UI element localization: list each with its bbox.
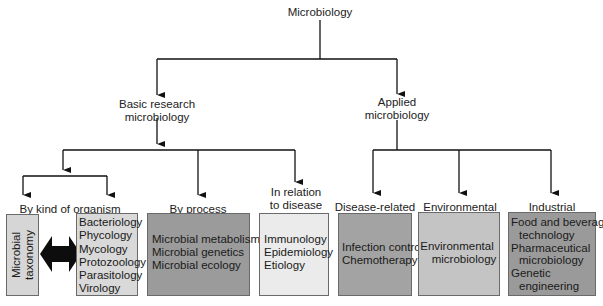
basic-label-line1: Basic research [107,98,207,111]
list-item: Environmental [419,240,499,253]
list-item: Pharmaceutical [511,242,595,255]
box-organism-disciplines: Bacteriology Phycology Mycology Protozoo… [76,213,138,296]
category-in-relation-to-disease: In relation to disease [258,186,334,212]
applied-label-line2: microbiology [347,109,447,122]
list-item: Mycology [79,243,137,256]
list-item: engineering [511,280,595,293]
list-item: Microbial ecology [152,259,249,272]
box-disease-related: Infection control Chemotherapy [338,213,412,296]
list-item: Microbial genetics [152,246,249,259]
box-industrial: Food and beverage technology Pharmaceuti… [508,212,596,296]
box-by-process: Microbial metabolism Microbial genetics … [147,213,250,296]
box-microbial-taxonomy: Microbial taxonomy [6,214,39,296]
list-item: microbiology [511,254,595,267]
list-item: Food and beverage [511,216,595,229]
list-item: Etiology [264,259,328,272]
list-item: Protozoology [79,256,137,269]
bidirectional-arrow-icon [40,236,81,272]
list-item: Immunology [264,233,328,246]
list-item: Infection control [342,241,411,254]
list-item: microbiology [419,253,499,266]
list-item: Epidemiology [264,246,328,259]
list-item: Virology [79,282,137,295]
taxonomy-line2: taxonomy [23,215,36,295]
root-label: Microbiology [270,6,370,19]
taxonomy-text: Microbial taxonomy [10,215,36,295]
applied-label-line1: Applied [347,96,447,109]
box-environmental: Environmental microbiology [418,212,500,296]
list-item: Microbial metabolism [152,233,249,246]
list-item: Chemotherapy [342,254,411,267]
list-item: Phycology [79,229,137,242]
list-item: Parasitology [79,269,137,282]
basic-label-line2: microbiology [107,111,207,124]
basic-research-label: Basic research microbiology [107,98,207,124]
list-item: technology [511,229,595,242]
disease-relation-line2: to disease [258,199,334,212]
box-in-relation-to-disease: Immunology Epidemiology Etiology [259,213,329,296]
taxonomy-line1: Microbial [10,215,23,295]
disease-relation-line1: In relation [258,186,334,199]
applied-label: Applied microbiology [347,96,447,122]
list-item: Genetic [511,267,595,280]
list-item: Bacteriology [79,216,137,229]
